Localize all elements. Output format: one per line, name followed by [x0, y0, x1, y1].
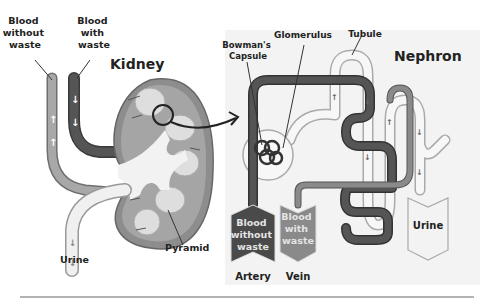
- pyramid-5: [134, 209, 160, 235]
- svg-text:↑: ↑: [49, 114, 57, 125]
- svg-text:↓: ↓: [364, 153, 371, 162]
- svg-text:↑: ↑: [386, 118, 393, 127]
- vein-output-chevron: Blood with waste: [280, 205, 316, 262]
- kidney-title: Kidney: [110, 56, 164, 72]
- svg-text:Urine: Urine: [413, 220, 444, 231]
- svg-text:Blood without wast: Blood without waste: [231, 217, 275, 252]
- caption-artery: Artery: [235, 271, 271, 282]
- urine-output-chevron: Urine: [408, 198, 448, 260]
- svg-text:↓: ↓: [71, 94, 79, 105]
- svg-text:↓: ↓: [416, 168, 423, 177]
- svg-text:↓: ↓: [364, 97, 371, 106]
- svg-text:↓: ↓: [416, 128, 423, 137]
- label-tubule: Tubule: [348, 29, 382, 39]
- caption-vein: Vein: [286, 271, 311, 282]
- label-blood-with-waste: Blood with waste: [77, 15, 111, 50]
- svg-text:↑: ↑: [331, 93, 338, 102]
- svg-text:↑: ↑: [49, 137, 57, 148]
- svg-text:↓: ↓: [69, 238, 77, 248]
- blood-with-waste-tube: ↓ ↓: [71, 78, 118, 152]
- kidney-nephron-diagram: ↑ ↑ ↓ ↓ ↓ ↓ Blood without: [0, 0, 494, 306]
- pyramid-4: [155, 187, 185, 213]
- pyramid-1: [135, 88, 165, 116]
- label-pyramid: Pyramid: [165, 242, 209, 253]
- nephron-title: Nephron: [394, 48, 462, 64]
- label-blood-without-waste: Blood without waste: [3, 15, 47, 50]
- label-glomerulus: Glomerulus: [274, 30, 332, 40]
- label-urine: Urine: [60, 254, 89, 265]
- label-bowmans-capsule: Bowman's Capsule: [222, 40, 273, 61]
- svg-text:Blood with waste: Blood with waste: [281, 211, 315, 246]
- svg-text:↓: ↓: [71, 117, 79, 128]
